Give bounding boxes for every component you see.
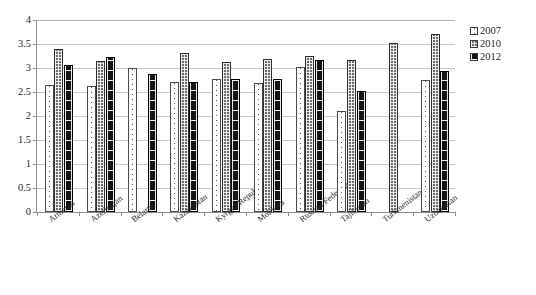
legend-label: 2007 (480, 25, 501, 36)
y-axis-label: 0 (5, 207, 31, 217)
y-axis-label: 1 (5, 159, 31, 169)
x-axis-tick (288, 212, 289, 216)
y-axis-label: 1.5 (5, 135, 31, 145)
bar-uzbekistan-2012 (440, 71, 449, 212)
bar-moldova-2012 (273, 79, 282, 212)
bar-azerbaijan-2012 (106, 57, 115, 212)
legend-label: 2010 (480, 38, 501, 49)
bar-azerbaijan-2010 (96, 61, 105, 212)
x-axis-tick (413, 212, 414, 216)
x-axis-tick (246, 212, 247, 216)
bar-kazakhstan-2010 (180, 53, 189, 212)
x-axis-tick (79, 212, 80, 216)
bar-group (212, 20, 240, 212)
bar-belarus-2012 (148, 74, 157, 212)
bar-turkmenistan-2010 (389, 43, 398, 212)
x-axis-tick (162, 212, 163, 216)
y-axis-tick (33, 188, 37, 189)
y-axis-label: 0.5 (5, 183, 31, 193)
y-axis-tick (33, 44, 37, 45)
x-axis-tick (455, 212, 456, 216)
y-axis-tick (33, 68, 37, 69)
y-axis-tick (33, 140, 37, 141)
legend-item-2012[interactable]: 2012 (470, 50, 532, 63)
bar-moldova-2010 (263, 59, 272, 212)
clipped-chart-title (0, 0, 536, 7)
bar-chart: 43.532.521.510.50ArmeniaAzerbaijanBelaru… (0, 0, 536, 295)
y-axis-label: 2.5 (5, 87, 31, 97)
bar-kazakhstan-2012 (189, 82, 198, 212)
bar-uzbekistan-2010 (431, 34, 440, 212)
legend-label: 2012 (480, 51, 501, 62)
x-axis-tick (37, 212, 38, 216)
bar-armenia-2012 (64, 65, 73, 212)
plot-area: 43.532.521.510.50ArmeniaAzerbaijanBelaru… (36, 20, 455, 213)
x-axis-tick (204, 212, 205, 216)
bar-russian-federation-2007 (296, 67, 305, 212)
bar-tajikistan-2012 (357, 91, 366, 212)
bar-kazakhstan-2007 (170, 82, 179, 212)
bar-kyrgyz-republic-2010 (222, 62, 231, 212)
bar-group (296, 20, 324, 212)
y-axis-tick (33, 116, 37, 117)
y-axis-label: 3 (5, 63, 31, 73)
y-axis-label: 4 (5, 15, 31, 25)
y-axis-tick (33, 20, 37, 21)
bar-russian-federation-2010 (305, 56, 314, 212)
bar-belarus-2007 (128, 68, 137, 212)
bar-kyrgyz-republic-2012 (231, 79, 240, 212)
y-axis-tick (33, 92, 37, 93)
y-axis-tick (33, 164, 37, 165)
bar-group (379, 20, 407, 212)
bar-group (337, 20, 365, 212)
bar-group (170, 20, 198, 212)
bar-tajikistan-2007 (337, 111, 346, 212)
bar-armenia-2010 (54, 49, 63, 212)
bar-group (254, 20, 282, 212)
bar-moldova-2007 (254, 83, 263, 212)
bar-armenia-2007 (45, 85, 54, 212)
legend-item-2007[interactable]: 2007 (470, 24, 532, 37)
legend-swatch-2010 (470, 40, 478, 48)
bar-azerbaijan-2007 (87, 86, 96, 212)
bar-group (421, 20, 449, 212)
bar-tajikistan-2010 (347, 60, 356, 212)
bar-group (45, 20, 73, 212)
y-axis-label: 2 (5, 111, 31, 121)
x-axis-tick (330, 212, 331, 216)
bar-russian-federation-2012 (315, 60, 324, 212)
x-axis-tick (371, 212, 372, 216)
bar-kyrgyz-republic-2007 (212, 79, 221, 212)
x-axis-tick (121, 212, 122, 216)
y-axis-label: 3.5 (5, 39, 31, 49)
bar-uzbekistan-2007 (421, 80, 430, 212)
legend-swatch-2012 (470, 53, 478, 61)
legend-item-2010[interactable]: 2010 (470, 37, 532, 50)
legend-swatch-2007 (470, 27, 478, 35)
bar-group (87, 20, 115, 212)
chart-legend: 200720102012 (470, 24, 532, 63)
bar-group (128, 20, 156, 212)
